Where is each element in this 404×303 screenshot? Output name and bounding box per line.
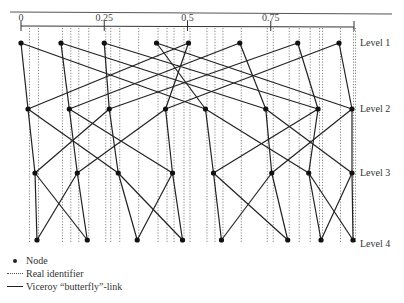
legend-real-identifier: Real identifier [4, 267, 122, 280]
node [107, 106, 112, 111]
butterfly-link [272, 173, 288, 240]
node [237, 40, 242, 45]
node [350, 237, 355, 242]
node [18, 40, 23, 45]
butterfly-link [205, 109, 308, 173]
axis-tick-label: 0 [19, 12, 24, 23]
butterfly-link [213, 109, 318, 173]
node [349, 106, 354, 111]
node [336, 40, 341, 45]
axis-tick-label: 0.25 [96, 12, 114, 23]
legend-node-label: Node [26, 254, 48, 267]
node [219, 237, 224, 242]
node [116, 170, 121, 175]
butterfly-link [352, 173, 353, 240]
node [170, 170, 175, 175]
level-label: Level 1 [360, 37, 390, 48]
node [186, 40, 191, 45]
axis-tick-label: 0.5 [181, 12, 194, 23]
node [85, 237, 90, 242]
butterfly-link [35, 173, 37, 240]
node [285, 237, 290, 242]
legend-link-label: Viceroy “butterfly”-link [26, 280, 122, 293]
nodes [18, 40, 355, 242]
butterfly-link [28, 109, 35, 173]
node-symbol-icon [4, 259, 26, 263]
butterfly-link [21, 43, 28, 109]
dotted-line-icon [4, 273, 26, 274]
node [135, 237, 140, 242]
node [295, 40, 300, 45]
node [263, 106, 268, 111]
node [75, 170, 80, 175]
level-label: Level 3 [360, 167, 390, 178]
butterfly-link [77, 109, 165, 173]
node [349, 170, 354, 175]
node [67, 106, 72, 111]
node [211, 170, 216, 175]
node [203, 106, 208, 111]
axis-tick-label: 0.75 [262, 12, 280, 23]
legend-link: Viceroy “butterfly”-link [4, 280, 122, 293]
solid-line-icon [4, 286, 26, 287]
butterfly-link [166, 43, 339, 109]
legend-node: Node [4, 254, 122, 267]
butterfly-link [69, 43, 239, 109]
node [315, 106, 320, 111]
node [154, 40, 159, 45]
butterfly-link [166, 109, 173, 173]
node [180, 237, 185, 242]
butterfly-link [221, 173, 271, 240]
legend-real-identifier-label: Real identifier [26, 267, 83, 280]
node [318, 237, 323, 242]
node [25, 106, 30, 111]
node [102, 40, 107, 45]
node [34, 237, 39, 242]
node [32, 170, 37, 175]
node [306, 170, 311, 175]
legend: Node Real identifier Viceroy “butterfly”… [4, 254, 122, 293]
node [269, 170, 274, 175]
node [58, 40, 63, 45]
butterfly-link [213, 173, 287, 240]
butterfly-link [321, 173, 352, 240]
butterfly-link [21, 43, 205, 109]
axis-ticks: 00.250.50.75 [19, 12, 355, 31]
top-rule [10, 12, 392, 14]
butterfly-link [298, 43, 318, 109]
node [163, 106, 168, 111]
level-label: Level 2 [360, 103, 390, 114]
butterfly-link [35, 109, 109, 173]
level-label: Level 4 [360, 238, 390, 249]
